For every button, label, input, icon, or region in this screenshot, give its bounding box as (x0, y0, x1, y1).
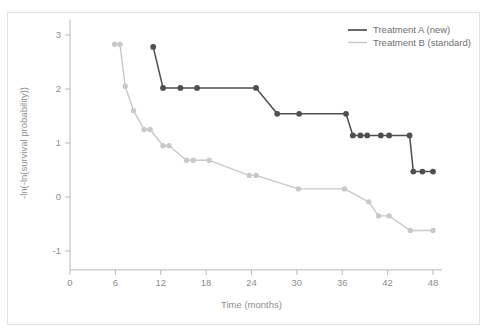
x-tick-label: 6 (113, 277, 118, 288)
data-point-marker (296, 186, 301, 191)
x-tick-label: 42 (382, 277, 393, 288)
data-point-marker (386, 133, 392, 139)
data-point-marker (386, 213, 391, 218)
x-tick-label: 18 (201, 277, 212, 288)
legend-label-treatment-b: Treatment B (standard) (373, 37, 471, 48)
legend-label-treatment-a: Treatment A (new) (373, 24, 450, 35)
data-point-marker (253, 85, 259, 91)
chart-canvas: -10123 0612182430364248 Treatment A (new… (0, 0, 488, 334)
figure-container: -10123 0612182430364248 Treatment A (new… (0, 0, 488, 334)
x-tick-label: 48 (428, 277, 439, 288)
y-tick-label: 2 (56, 83, 61, 94)
data-point-marker (184, 158, 189, 163)
data-point-marker (117, 41, 122, 46)
chart-legend: Treatment A (new)Treatment B (standard) (348, 24, 471, 48)
y-tick-label: -1 (53, 245, 61, 256)
data-point-marker (274, 111, 280, 117)
data-point-marker (378, 133, 384, 139)
y-axis-title: -ln(-ln(survival probability)) (18, 87, 29, 199)
data-point-marker (407, 133, 413, 139)
series-line (115, 44, 433, 230)
x-tick-label: 30 (292, 277, 303, 288)
data-point-marker (178, 85, 184, 91)
data-point-marker (410, 169, 416, 175)
data-point-marker (247, 173, 252, 178)
data-point-marker (194, 85, 200, 91)
data-point-marker (366, 199, 371, 204)
data-point-marker (358, 133, 364, 139)
data-point-marker (131, 108, 136, 113)
y-tick-label: 1 (56, 137, 61, 148)
y-axis: -10123 (53, 20, 70, 270)
data-point-marker (430, 228, 435, 233)
data-point-marker (112, 41, 117, 46)
y-tick-label: 0 (56, 191, 61, 202)
series-treatment-a (150, 44, 436, 175)
y-tick-label: 3 (56, 29, 61, 40)
data-point-marker (253, 173, 258, 178)
data-point-marker (296, 111, 302, 117)
data-point-marker (147, 127, 152, 132)
data-series-group (112, 41, 436, 233)
data-point-marker (364, 133, 370, 139)
data-point-marker (350, 133, 356, 139)
data-point-marker (141, 127, 146, 132)
x-axis-title: Time (months) (221, 299, 282, 310)
data-point-marker (123, 84, 128, 89)
data-point-marker (342, 186, 347, 191)
data-point-marker (150, 44, 156, 50)
x-tick-label: 36 (337, 277, 348, 288)
data-point-marker (408, 228, 413, 233)
data-point-marker (166, 143, 171, 148)
x-tick-label: 0 (67, 277, 72, 288)
data-point-marker (206, 158, 211, 163)
x-axis: 0612182430364248 (67, 270, 442, 288)
data-point-marker (420, 169, 426, 175)
data-point-marker (430, 169, 436, 175)
x-tick-label: 24 (246, 277, 257, 288)
data-point-marker (376, 213, 381, 218)
data-point-marker (160, 85, 166, 91)
data-point-marker (191, 158, 196, 163)
series-line (153, 47, 433, 172)
data-point-marker (160, 143, 165, 148)
data-point-marker (343, 111, 349, 117)
x-tick-label: 12 (155, 277, 166, 288)
